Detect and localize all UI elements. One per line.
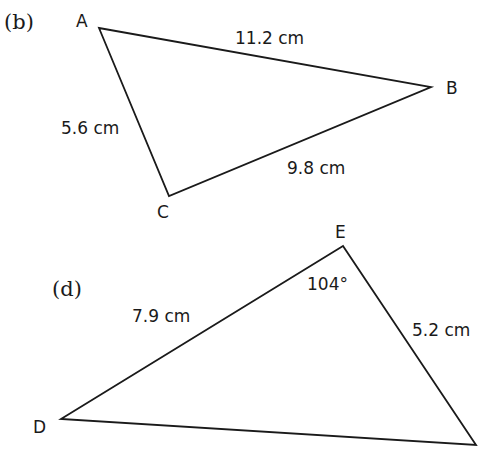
- vertex-label-b: B: [446, 78, 458, 98]
- side-label-ab: 11.2 cm: [235, 28, 304, 48]
- triangle-abc: [99, 28, 431, 196]
- angle-label-e: 104°: [307, 274, 348, 294]
- vertex-label-c: C: [157, 202, 169, 222]
- side-label-de: 7.9 cm: [132, 306, 190, 326]
- figure-b: (b) A B C 11.2 cm 5.6 cm 9.8 cm: [4, 10, 458, 222]
- side-label-bc: 9.8 cm: [287, 158, 345, 178]
- vertex-label-d: D: [33, 417, 46, 437]
- part-label-d: (d): [52, 277, 82, 301]
- vertex-label-a: A: [76, 11, 88, 31]
- triangle-diagram: (b) A B C 11.2 cm 5.6 cm 9.8 cm (d) E D …: [0, 0, 482, 459]
- figure-d: (d) E D 7.9 cm 5.2 cm 104°: [33, 222, 476, 445]
- vertex-label-e: E: [335, 222, 346, 242]
- triangle-def: [61, 246, 476, 445]
- part-label-b: (b): [4, 10, 34, 34]
- side-label-ef: 5.2 cm: [412, 320, 470, 340]
- side-label-ac: 5.6 cm: [61, 118, 119, 138]
